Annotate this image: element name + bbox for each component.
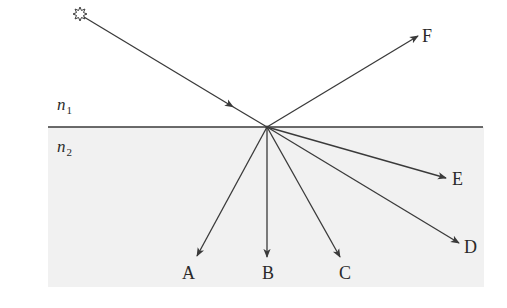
incident-ray — [84, 17, 267, 127]
ray-label-e: E — [452, 169, 463, 189]
light-source-icon — [73, 7, 87, 21]
ray-line-f — [267, 36, 418, 127]
medium-label-n1: n1 — [57, 95, 72, 116]
star-icon — [73, 7, 87, 21]
ray-label-f: F — [422, 26, 432, 46]
incident-ray-segment-2 — [230, 105, 267, 127]
ray-label-c: C — [339, 263, 351, 283]
incidence-point — [265, 125, 268, 128]
incident-ray-segment-1 — [84, 17, 230, 105]
ray-label-a: A — [182, 263, 195, 283]
diagram-svg: n1n2 FABCDE — [0, 0, 507, 308]
refraction-diagram: n1n2 FABCDE — [0, 0, 507, 308]
ray-label-d: D — [464, 237, 477, 257]
ray-label-b: B — [262, 263, 274, 283]
ray-f: F — [267, 26, 432, 127]
